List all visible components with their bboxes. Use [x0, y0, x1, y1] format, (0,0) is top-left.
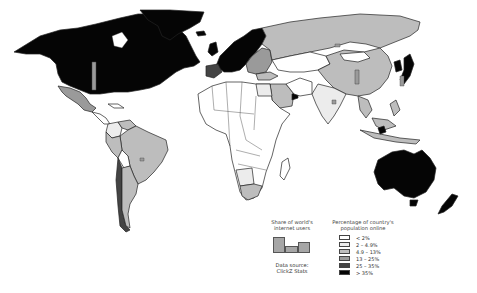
- legend-row: 4.9 – 13%: [332, 248, 412, 255]
- legend-row: 2 – 4.9%: [332, 241, 412, 248]
- data-source-line2: ClickZ Stats: [266, 268, 318, 274]
- legend-share-title-line2: internet users: [266, 225, 318, 231]
- legend-row: 25 – 35%: [332, 262, 412, 269]
- swatch-label: 13 – 25%: [356, 256, 379, 262]
- region-south-africa: [240, 184, 262, 200]
- legend-share-of-users: Share of world's internet users Data sou…: [266, 219, 318, 274]
- swatch-25-35: [339, 263, 350, 268]
- share-bars: [273, 235, 311, 253]
- swatch-lt2: [339, 235, 350, 240]
- legend-row: 13 – 25%: [332, 255, 412, 262]
- swatch-13-25: [339, 256, 350, 261]
- swatch-label: 2 – 4.9%: [356, 242, 378, 248]
- legend-pct-title-line2: population online: [332, 225, 394, 231]
- share-bar-americas: [273, 237, 285, 253]
- share-bar-usa: [92, 62, 96, 90]
- swatch-label: 4.9 – 13%: [356, 249, 381, 255]
- swatch-label: < 2%: [356, 235, 370, 241]
- swatch-4_9-13: [339, 249, 350, 254]
- swatch-label: > 35%: [356, 270, 373, 276]
- swatch-gt35: [339, 270, 350, 275]
- legend-swatches: < 2% 2 – 4.9% 4.9 – 13% 13 – 25% 25 – 35…: [332, 234, 412, 276]
- region-new-zealand: [438, 194, 458, 214]
- swatch-label: 25 – 35%: [356, 263, 379, 269]
- region-egypt: [256, 84, 272, 96]
- legend-percentage-online: Percentage of country's population onlin…: [332, 219, 412, 276]
- share-bar-asia: [298, 242, 310, 253]
- legend-row: > 35%: [332, 269, 412, 276]
- swatch-2-4_9: [339, 242, 350, 247]
- legend-row: < 2%: [332, 234, 412, 241]
- share-bar-europe: [285, 246, 298, 253]
- region-australia: [374, 150, 436, 198]
